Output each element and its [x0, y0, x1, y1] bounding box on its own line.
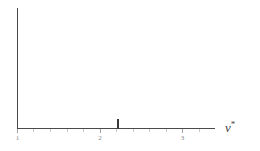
x-axis-title: ν*	[225, 120, 235, 134]
x-axis-minor-ticks	[34, 129, 200, 132]
x-axis-title-superscript: *	[231, 119, 236, 129]
x-tick-label-1: 1	[16, 134, 20, 142]
plot-canvas: 1 2 3	[0, 0, 260, 151]
x-tick-label-3: 3	[181, 134, 185, 142]
plot-figure: 1 2 3 ν*	[0, 0, 260, 151]
x-tick-label-2: 2	[98, 134, 102, 142]
x-axis-major-ticks	[18, 129, 183, 133]
